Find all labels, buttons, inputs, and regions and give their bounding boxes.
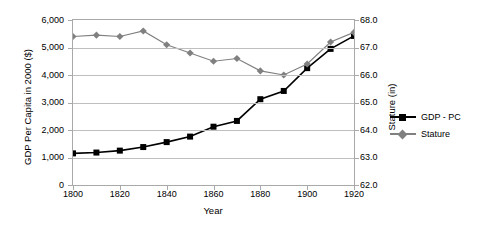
data-point xyxy=(187,134,193,140)
series-stature xyxy=(73,27,354,78)
legend-marker-stature xyxy=(390,128,416,139)
x-axis-tick xyxy=(120,186,121,190)
y-axis-right-tick xyxy=(355,185,359,186)
plot-area xyxy=(72,19,355,186)
x-axis-tick-label: 1900 xyxy=(287,190,327,199)
chart-figure: GDP Per Capita in 2000 ($) Stature (in) … xyxy=(0,0,489,237)
y-axis-right-tick xyxy=(355,48,359,49)
legend-label-stature: Stature xyxy=(421,129,450,139)
series-gdp-pc xyxy=(73,33,354,156)
y-axis-left-tick-label: 0 xyxy=(18,181,64,190)
x-axis-tick-label: 1840 xyxy=(147,190,187,199)
data-point xyxy=(93,150,99,156)
data-point xyxy=(281,88,287,94)
y-axis-right-tick xyxy=(355,130,359,131)
series-line xyxy=(73,36,354,153)
data-point xyxy=(164,139,170,145)
y-axis-right-tick-label: 67.0 xyxy=(360,43,394,52)
legend-marker-gdp-pc xyxy=(390,111,416,122)
data-point xyxy=(73,33,77,40)
y-axis-right-tick xyxy=(355,75,359,76)
y-axis-right-tick-label: 65.0 xyxy=(360,98,394,107)
legend-item-gdp-pc: GDP - PC xyxy=(390,108,485,125)
x-axis-tick xyxy=(354,186,355,190)
data-point xyxy=(73,150,76,156)
data-point xyxy=(210,58,217,65)
gridline xyxy=(73,75,354,76)
x-axis-tick-label: 1880 xyxy=(240,190,280,199)
data-point xyxy=(257,67,264,74)
y-axis-right-tick xyxy=(355,103,359,104)
chart-legend: GDP - PC Stature xyxy=(390,108,485,142)
x-axis-tick xyxy=(214,186,215,190)
legend-item-stature: Stature xyxy=(390,125,485,142)
y-axis-right-tick-label: 63.0 xyxy=(360,153,394,162)
data-point xyxy=(93,32,100,39)
data-point xyxy=(140,27,147,34)
y-axis-right-tick-label: 62.0 xyxy=(360,181,394,190)
gridline xyxy=(73,130,354,131)
x-axis-tick xyxy=(307,186,308,190)
data-point xyxy=(257,96,263,102)
legend-label-gdp-pc: GDP - PC xyxy=(421,112,461,122)
y-axis-left-tick-label: 4,000 xyxy=(18,71,64,80)
gridline xyxy=(73,48,354,49)
data-point xyxy=(211,124,217,130)
x-axis-tick-label: 1820 xyxy=(100,190,140,199)
data-point xyxy=(233,55,240,62)
gridline xyxy=(73,158,354,159)
y-axis-right-tick xyxy=(355,20,359,21)
data-point xyxy=(140,144,146,150)
gridline xyxy=(73,103,354,104)
x-axis-title: Year xyxy=(133,206,293,216)
x-axis-tick xyxy=(73,186,74,190)
y-axis-left-tick-label: 3,000 xyxy=(18,98,64,107)
x-axis-tick-label: 1800 xyxy=(53,190,93,199)
y-axis-right-tick-label: 68.0 xyxy=(360,16,394,25)
data-point xyxy=(116,33,123,40)
y-axis-left-tick-label: 6,000 xyxy=(18,16,64,25)
data-point xyxy=(186,49,193,56)
y-axis-right-tick-label: 64.0 xyxy=(360,126,394,135)
x-axis-tick xyxy=(260,186,261,190)
x-axis-tick xyxy=(167,186,168,190)
data-point xyxy=(117,148,123,154)
y-axis-right-tick-label: 66.0 xyxy=(360,71,394,80)
y-axis-left-tick-label: 1,000 xyxy=(18,153,64,162)
y-axis-left-tick-label: 5,000 xyxy=(18,43,64,52)
y-axis-right-tick xyxy=(355,158,359,159)
x-axis-tick-label: 1920 xyxy=(334,190,374,199)
series-line xyxy=(73,31,354,75)
data-point xyxy=(234,118,240,124)
x-axis-tick-label: 1860 xyxy=(194,190,234,199)
y-axis-left-tick-label: 2,000 xyxy=(18,126,64,135)
